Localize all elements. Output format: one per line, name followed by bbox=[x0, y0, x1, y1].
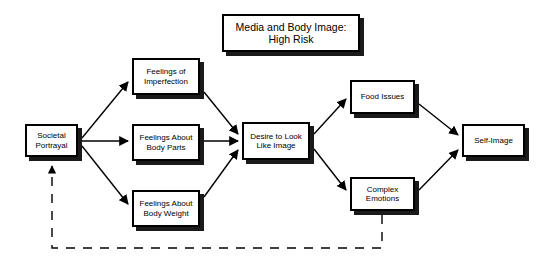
node-societal-portrayal-label: Societal Portrayal bbox=[33, 131, 69, 149]
edge-desire-to-complex-emotions bbox=[314, 149, 346, 190]
node-title-label: Media and Body Image: High Risk bbox=[234, 21, 349, 45]
node-feelings-about-body-parts-label: Feelings About Body Parts bbox=[138, 133, 195, 151]
edge-complex-emotions-to-self-image bbox=[419, 150, 458, 190]
node-feelings-of-imperfection-label: Feelings of Imperfection bbox=[142, 67, 190, 85]
node-complex-emotions: Complex Emotions bbox=[350, 177, 415, 211]
edge-societal-to-body-weight bbox=[82, 146, 128, 204]
node-feelings-of-imperfection: Feelings of Imperfection bbox=[132, 58, 200, 95]
node-self-image-label: Self-Image bbox=[472, 136, 515, 145]
edge-imperfection-to-desire bbox=[204, 92, 238, 134]
node-desire-to-look-like-image-label: Desire to Look Like Image bbox=[248, 132, 304, 150]
edge-desire-to-food-issues bbox=[314, 99, 346, 134]
node-societal-portrayal: Societal Portrayal bbox=[25, 124, 78, 157]
node-self-image: Self-Image bbox=[462, 124, 525, 157]
edge-complex-emotions-to-societal-feedback bbox=[52, 166, 382, 248]
node-food-issues-label: Food Issues bbox=[359, 92, 407, 101]
node-feelings-about-body-weight-label: Feelings About Body Weight bbox=[138, 199, 195, 217]
node-title-media-and-body-image: Media and Body Image: High Risk bbox=[222, 14, 360, 52]
node-complex-emotions-label: Complex Emotions bbox=[364, 185, 401, 203]
diagram-canvas: Media and Body Image: High Risk Societal… bbox=[0, 0, 549, 269]
edge-societal-to-imperfection bbox=[82, 82, 128, 138]
edge-body-weight-to-desire bbox=[204, 150, 238, 197]
node-desire-to-look-like-image: Desire to Look Like Image bbox=[242, 122, 310, 160]
node-feelings-about-body-parts: Feelings About Body Parts bbox=[132, 124, 200, 161]
node-feelings-about-body-weight: Feelings About Body Weight bbox=[132, 190, 200, 227]
edge-food-issues-to-self-image bbox=[419, 104, 458, 135]
node-food-issues: Food Issues bbox=[350, 80, 415, 114]
